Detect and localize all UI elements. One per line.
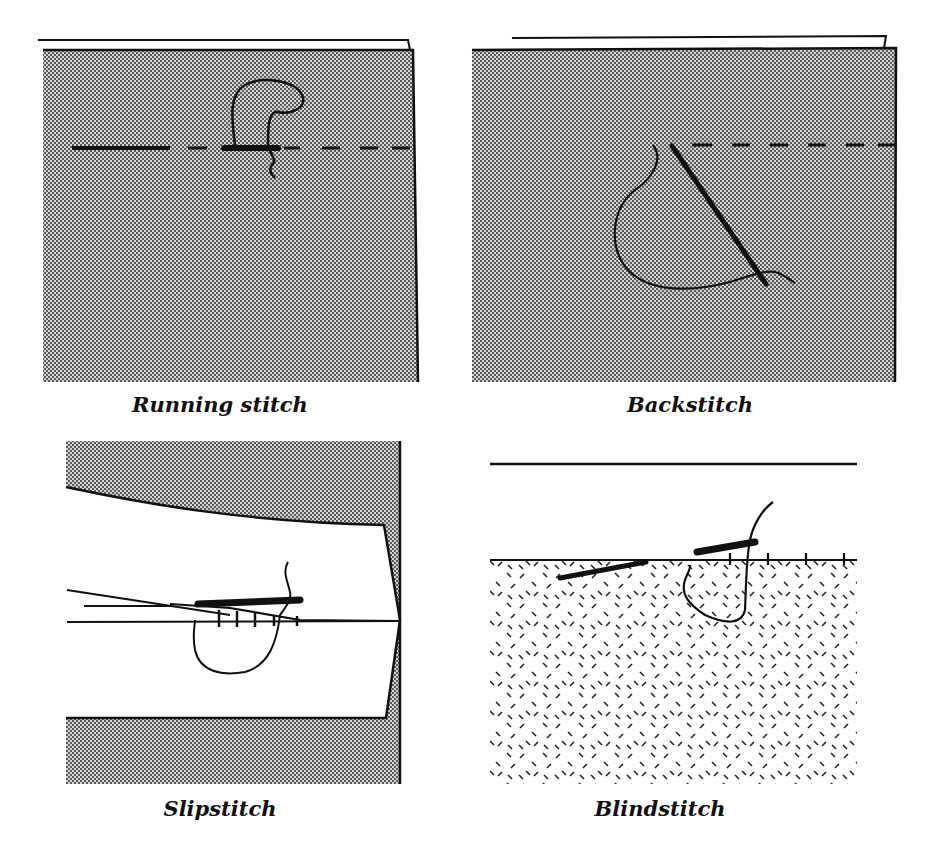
caption-backstitch: Backstitch <box>580 392 800 417</box>
caption-running-stitch: Running stitch <box>105 392 335 417</box>
panel-running-stitch <box>38 40 418 382</box>
panel-slipstitch <box>66 441 400 784</box>
panel-blindstitch <box>490 464 857 784</box>
stitch-illustration: Running stitch Backstitch Slipstitch Bli… <box>0 0 934 851</box>
panel-backstitch <box>472 36 896 382</box>
caption-blindstitch: Blindstitch <box>545 796 775 821</box>
needle-icon <box>697 542 755 552</box>
needle-icon <box>198 600 300 604</box>
caption-slipstitch: Slipstitch <box>110 796 330 821</box>
